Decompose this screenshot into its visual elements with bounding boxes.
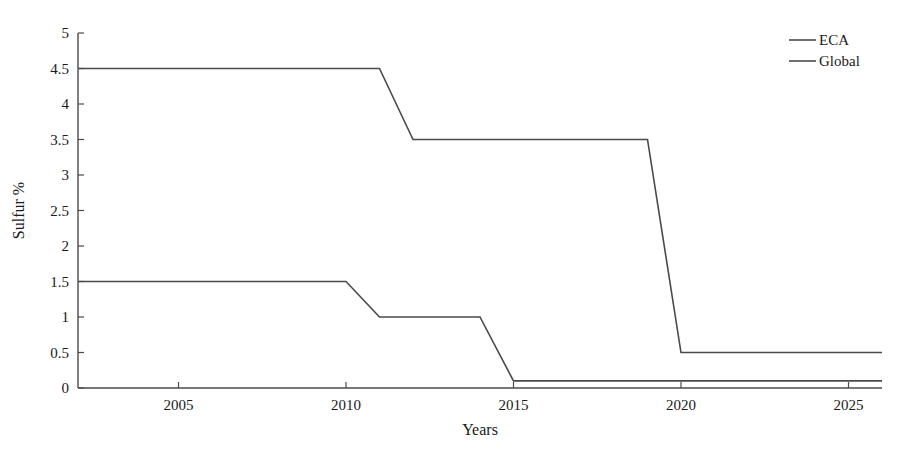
legend-label-eca: ECA: [819, 32, 849, 48]
y-tick-label: 1.5: [50, 274, 69, 290]
x-tick-label: 2010: [331, 397, 361, 413]
x-tick-label: 2025: [834, 397, 864, 413]
y-tick-label: 3.5: [50, 132, 69, 148]
y-tick-label: 4: [62, 96, 70, 112]
series-line-eca: [78, 282, 882, 381]
x-tick-label: 2020: [666, 397, 696, 413]
y-tick-label: 5: [62, 25, 70, 41]
chart-page: 00.511.522.533.544.55 200520102015202020…: [0, 0, 913, 450]
chart-legend: ECAGlobal: [789, 32, 860, 69]
y-tick-label: 0: [62, 380, 70, 396]
y-tick-label: 1: [62, 309, 70, 325]
y-axis-title: Sulfur %: [10, 182, 27, 239]
y-tick-label: 0.5: [50, 345, 69, 361]
x-tick-label: 2005: [164, 397, 194, 413]
y-tick-label: 2: [62, 238, 70, 254]
x-tick-label: 2015: [499, 397, 529, 413]
x-axis-tick-marks: [179, 382, 849, 388]
y-axis-tick-labels: 00.511.522.533.544.55: [50, 25, 69, 396]
y-tick-label: 2.5: [50, 203, 69, 219]
series-line-global: [78, 69, 882, 353]
y-tick-label: 3: [62, 167, 70, 183]
y-axis-tick-marks: [78, 33, 84, 388]
x-axis-tick-labels: 20052010201520202025: [164, 397, 864, 413]
y-tick-label: 4.5: [50, 61, 69, 77]
legend-label-global: Global: [819, 53, 860, 69]
x-axis-title: Years: [462, 421, 498, 438]
sulfur-limits-line-chart: 00.511.522.533.544.55 200520102015202020…: [0, 0, 913, 450]
data-series-group: [78, 69, 882, 381]
